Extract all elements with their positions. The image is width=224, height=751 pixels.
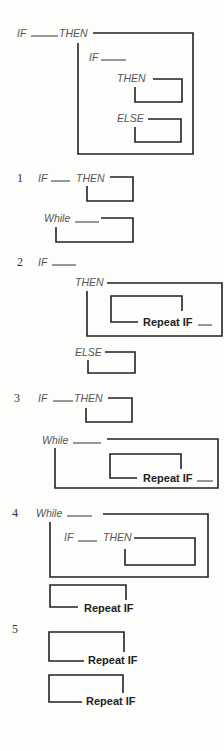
then-keyword: THEN [103, 531, 132, 543]
item-2: 2 IF THEN Repeat IF ELSE [17, 255, 222, 373]
repeat-if-label: Repeat IF [143, 472, 193, 484]
item-number: 3 [14, 391, 20, 405]
item-number: 1 [17, 171, 23, 185]
item-3: 3 IF THEN While Repeat IF [14, 391, 218, 488]
item-number: 4 [12, 506, 18, 520]
inner-if-keyword: IF [89, 51, 99, 63]
repeat-if-label: Repeat IF [88, 654, 138, 666]
repeat-if-label: Repeat IF [84, 602, 134, 614]
while-keyword: While [44, 212, 70, 224]
item-number: 5 [12, 622, 18, 636]
while-keyword: While [36, 507, 62, 519]
item-number: 2 [17, 255, 23, 269]
item-5: 5 Repeat IF Repeat IF [12, 622, 138, 707]
then-keyword: THEN [75, 276, 104, 288]
if-keyword: IF [38, 256, 48, 268]
item-4: 4 While IF THEN Repeat IF [12, 506, 208, 614]
nested-if-then-else-block: IF THEN IF THEN ELSE [17, 27, 193, 154]
if-keyword: IF [38, 392, 48, 404]
inner-then-keyword: THEN [117, 72, 146, 84]
if-keyword: IF [64, 531, 74, 543]
item-1: 1 IF THEN While [17, 171, 133, 242]
while-keyword: While [42, 434, 68, 446]
repeat-if-label: Repeat IF [86, 695, 136, 707]
then-keyword: THEN [59, 27, 88, 39]
control-structure-diagram: IF THEN IF THEN ELSE 1 IF THEN While 2 I… [0, 0, 224, 751]
repeat-if-label: Repeat IF [143, 316, 193, 328]
then-keyword: THEN [74, 392, 103, 404]
else-keyword: ELSE [75, 346, 103, 358]
if-keyword: IF [38, 172, 48, 184]
if-keyword: IF [17, 27, 27, 39]
inner-else-keyword: ELSE [117, 112, 145, 124]
then-keyword: THEN [76, 172, 105, 184]
